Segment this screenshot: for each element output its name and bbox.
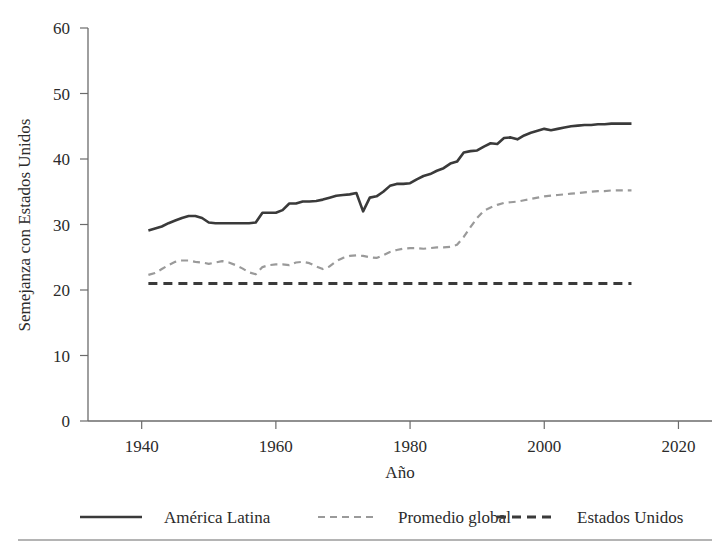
axis-group [88, 28, 712, 421]
y-axis-title: Semejanza con Estados Unidos [15, 119, 34, 332]
y-tick-label: 10 [53, 347, 70, 366]
y-tick-label: 60 [53, 19, 70, 38]
y-tick-label: 20 [53, 281, 70, 300]
y-tick-label: 30 [53, 216, 70, 235]
y-tick-label: 50 [53, 85, 70, 104]
legend-label-1: América Latina [164, 508, 271, 527]
chart-figure: 0102030405060 19401960198020002020 Semej… [0, 0, 725, 557]
x-axis-title: Año [385, 463, 414, 482]
legend-label-2: Promedio global [398, 508, 511, 527]
x-tick-label: 2020 [661, 437, 695, 456]
chart-legend: América LatinaPromedio globalEstados Uni… [80, 508, 683, 527]
y-tick-label: 40 [53, 150, 70, 169]
x-tick-label: 1960 [259, 437, 293, 456]
legend-label-3: Estados Unidos [577, 508, 683, 527]
x-tick-label: 1940 [125, 437, 159, 456]
series-line-1 [148, 124, 631, 231]
y-tick-label: 0 [62, 412, 71, 431]
y-axis-ticks: 0102030405060 [53, 19, 88, 431]
x-tick-label: 2000 [527, 437, 561, 456]
series-group [148, 124, 631, 284]
line-chart-canvas: 0102030405060 19401960198020002020 Semej… [0, 0, 725, 557]
x-axis-ticks: 19401960198020002020 [125, 421, 696, 456]
x-tick-label: 1980 [393, 437, 427, 456]
series-line-2 [148, 190, 631, 274]
